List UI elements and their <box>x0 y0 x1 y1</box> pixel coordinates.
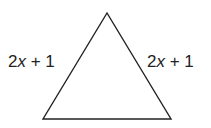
right-label-rest: + 1 <box>165 52 194 71</box>
right-label-var: x <box>156 52 165 71</box>
left-label-var: x <box>17 52 26 71</box>
left-side-label: 2x + 1 <box>8 53 55 70</box>
left-label-rest: + 1 <box>26 52 55 71</box>
right-side-label: 2x + 1 <box>147 53 194 70</box>
